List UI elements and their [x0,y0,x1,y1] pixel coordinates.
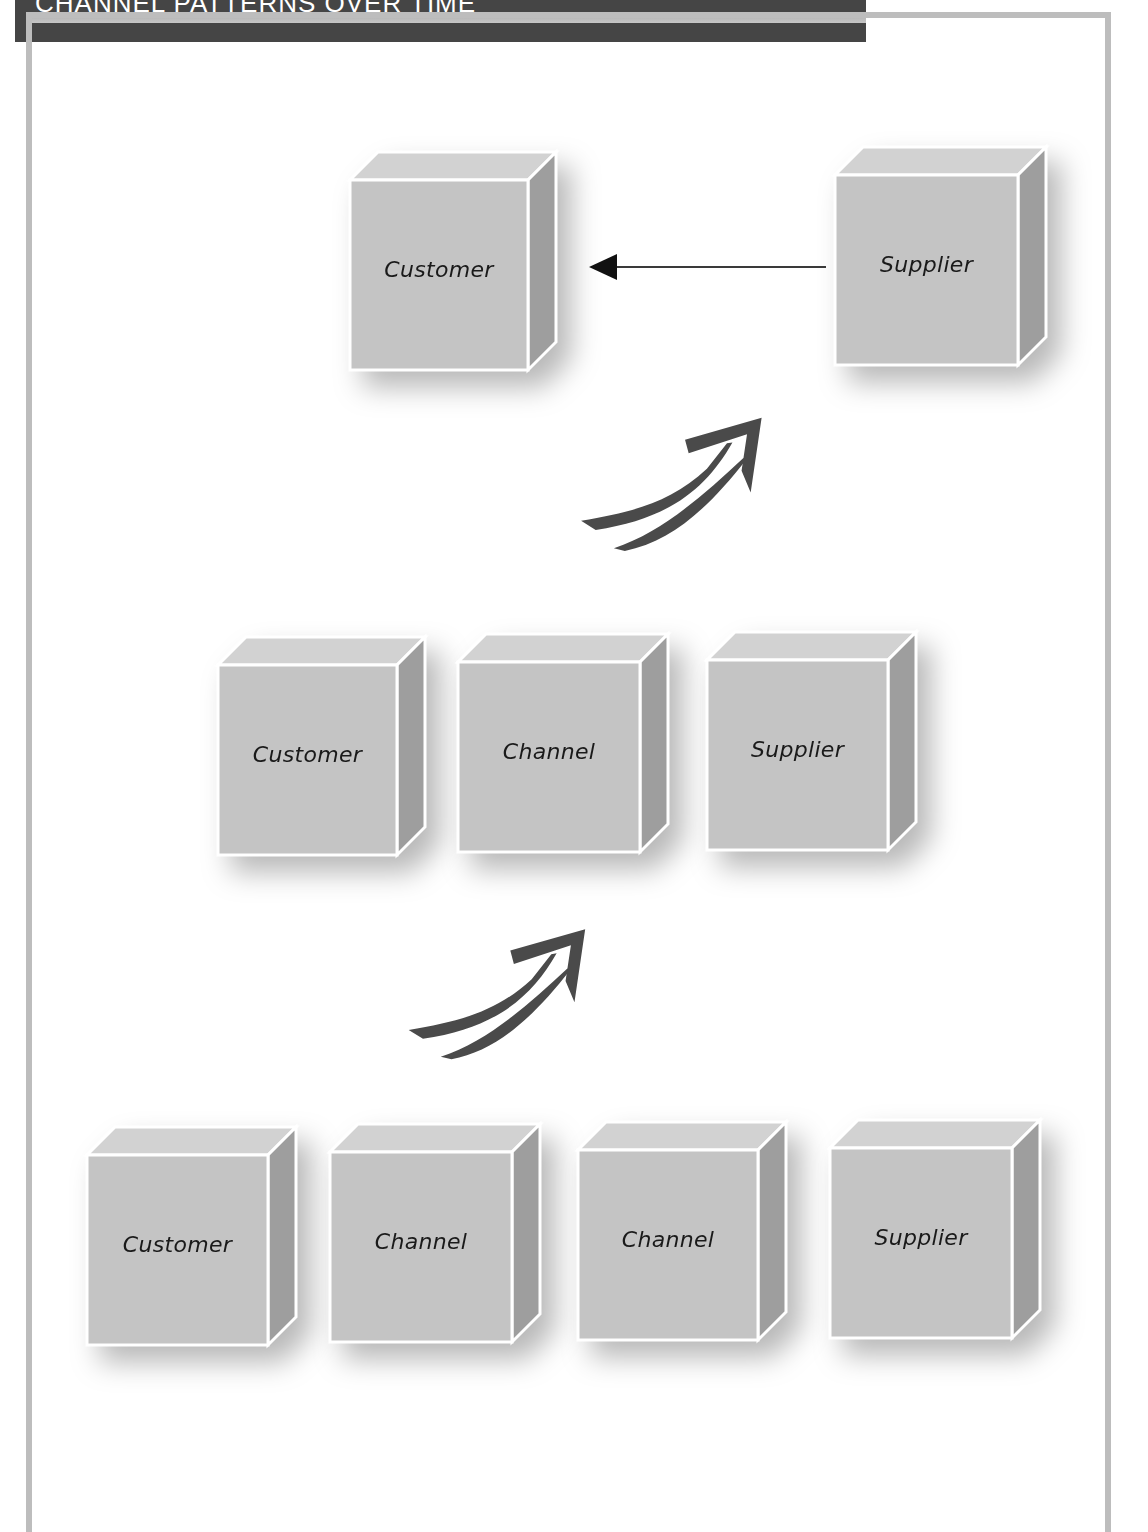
cube-label: Channel [458,739,640,764]
cube-node-channel: Channel [578,1122,786,1340]
cube-node-channel: Channel [330,1124,540,1342]
cube-label: Channel [330,1229,512,1254]
cube-node-channel: Channel [458,634,668,852]
cube-label: Supplier [707,737,888,762]
cube-node-supplier: Supplier [707,632,916,850]
cube-node-customer: Customer [218,637,425,855]
cube-label: Channel [578,1227,758,1252]
double-curved-arrow-icon [570,405,780,560]
cube-node-customer: Customer [87,1127,296,1345]
cube-label: Customer [87,1232,268,1257]
cube-node-supplier: Supplier [835,147,1046,365]
double-curved-arrow-icon [398,915,603,1070]
cube-node-supplier: Supplier [830,1120,1040,1338]
cube-label: Supplier [835,252,1018,277]
cube-node-customer: Customer [350,152,556,370]
arrow-left-icon [585,250,830,286]
cube-label: Customer [350,257,528,282]
cube-label: Customer [218,742,397,767]
cube-label: Supplier [830,1225,1012,1250]
